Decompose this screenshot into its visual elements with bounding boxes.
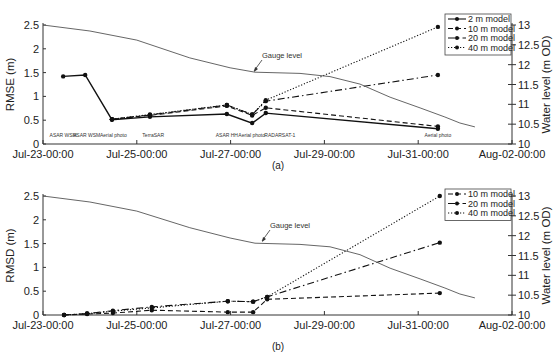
legend-entry: 40 m model <box>468 43 515 53</box>
data-marker <box>225 103 229 107</box>
data-marker <box>83 73 87 77</box>
y-tick-label: 1.5 <box>24 238 39 250</box>
x-tick-label: Aug-02-00:00 <box>479 319 546 331</box>
x-tick-label: Jul-23-00:00 <box>12 148 73 160</box>
data-marker <box>226 299 230 303</box>
sensor-label: RADARSAT-1 <box>264 132 295 138</box>
legend: 10 m model20 m model40 m model <box>445 189 515 221</box>
data-marker <box>62 313 66 317</box>
data-marker <box>436 124 440 128</box>
sensor-label: ASAR WSM <box>73 132 100 138</box>
panel-caption: (a) <box>272 160 284 171</box>
data-marker <box>85 311 89 315</box>
data-marker <box>265 295 269 299</box>
legend: 2 m model10 m model20 m model40 m model <box>445 14 515 55</box>
data-marker <box>111 309 115 313</box>
data-marker <box>250 112 254 116</box>
x-tick-label: Jul-29-00:00 <box>294 148 355 160</box>
data-marker <box>438 194 442 198</box>
y-right-tick-label: 11 <box>518 98 529 110</box>
series-20-m-model <box>64 243 440 315</box>
sensor-label: ASAR HH <box>216 132 239 138</box>
y-tick-label: 0.5 <box>24 285 39 297</box>
data-marker <box>110 117 114 121</box>
arrow-icon <box>262 237 266 242</box>
y-tick-label: 2.5 <box>24 190 39 202</box>
arrow-icon <box>254 67 258 72</box>
y-tick-label: 0.5 <box>24 114 39 126</box>
y-tick-label: 2.5 <box>24 19 39 31</box>
data-marker <box>226 310 230 314</box>
y-right-tick-label: 12.5 <box>518 210 539 222</box>
gauge-level-annotation: Gauge level <box>270 221 310 230</box>
y-right-tick-label: 11 <box>518 269 529 281</box>
y-axis-label-right: Water level (m OD) <box>540 35 552 133</box>
legend-entry: 2 m model <box>468 14 510 24</box>
data-marker <box>438 291 442 295</box>
y-tick-label: 1 <box>33 261 39 273</box>
data-marker <box>438 240 442 244</box>
panel-caption: (b) <box>272 341 284 352</box>
y-axis-label-right: Water level (m OD) <box>540 206 552 304</box>
y-right-tick-label: 12 <box>518 59 530 71</box>
legend-marker-icon <box>455 211 459 215</box>
data-marker <box>251 310 255 314</box>
legend-marker-icon <box>455 46 459 50</box>
figure: 00.511.522.51010.51111.51212.513Jul-23-0… <box>0 0 560 356</box>
y-tick-label: 1 <box>33 90 39 102</box>
data-marker <box>61 74 65 78</box>
y-tick-label: 2 <box>33 214 39 226</box>
legend-marker-icon <box>455 202 459 206</box>
x-tick-label: Jul-31-00:00 <box>388 319 449 331</box>
legend-marker-icon <box>455 27 459 31</box>
sensor-label: Aerial photo <box>425 132 452 138</box>
x-tick-label: Jul-31-00:00 <box>388 148 449 160</box>
legend-entry: 20 m model <box>468 33 515 43</box>
x-tick-label: Jul-25-00:00 <box>106 319 167 331</box>
sensor-label: TerraSAR <box>142 132 164 138</box>
y-right-tick-label: 12.5 <box>518 39 539 51</box>
data-marker <box>264 106 268 110</box>
y-axis-label-left: RMSE (m) <box>4 58 16 112</box>
data-marker <box>436 73 440 77</box>
sensor-label: Aerial photo <box>100 132 127 138</box>
x-tick-label: Aug-02-00:00 <box>479 148 546 160</box>
y-right-tick-label: 13 <box>518 19 530 31</box>
y-right-tick-label: 11.5 <box>518 79 539 91</box>
y-right-tick-label: 10.5 <box>518 118 539 130</box>
data-marker <box>264 111 268 115</box>
y-tick-label: 2 <box>33 43 39 55</box>
data-marker <box>250 121 254 125</box>
legend-marker-icon <box>455 36 459 40</box>
legend-entry: 10 m model <box>468 24 515 34</box>
x-tick-label: Jul-29-00:00 <box>294 319 355 331</box>
gauge-level-annotation: Gauge level <box>262 51 302 60</box>
y-axis-label-left: RMSD (m) <box>4 228 16 282</box>
x-tick-label: Jul-23-00:00 <box>12 319 73 331</box>
x-tick-label: Jul-25-00:00 <box>106 148 167 160</box>
y-tick-label: 1.5 <box>24 67 39 79</box>
series-gauge-level <box>43 196 475 298</box>
legend-marker-icon <box>455 192 459 196</box>
panel-a: 00.511.522.51010.51111.51212.513Jul-23-0… <box>4 14 552 171</box>
y-right-tick-label: 12 <box>518 230 530 242</box>
legend-entry: 20 m model <box>468 199 515 209</box>
data-marker <box>150 306 154 310</box>
y-right-tick-label: 11.5 <box>518 250 539 262</box>
y-right-tick-label: 13 <box>518 190 530 202</box>
legend-marker-icon <box>455 17 459 21</box>
y-right-tick-label: 10.5 <box>518 289 539 301</box>
data-marker <box>148 112 152 116</box>
data-marker <box>225 112 229 116</box>
data-marker <box>251 299 255 303</box>
legend-entry: 40 m model <box>468 208 515 218</box>
sensor-label: Aerial photo <box>238 132 265 138</box>
series-40-m-model <box>64 196 440 315</box>
data-marker <box>436 25 440 29</box>
panel-b: 00.511.522.51010.51111.51212.513Jul-23-0… <box>4 189 552 352</box>
data-marker <box>264 98 268 102</box>
x-tick-label: Jul-27-00:00 <box>200 319 261 331</box>
legend-entry: 10 m model <box>468 189 515 199</box>
x-tick-label: Jul-27-00:00 <box>200 148 261 160</box>
